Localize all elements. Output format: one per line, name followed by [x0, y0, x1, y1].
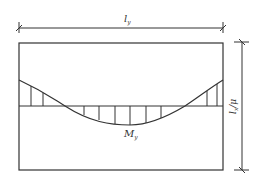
right-dimension-label: lx/μ [228, 99, 239, 114]
top-dimension-line [16, 22, 226, 33]
moment-label: My [123, 128, 138, 141]
moment-curve [19, 80, 223, 125]
moment-ordinates [31, 84, 217, 125]
top-dimension-label: ly [124, 13, 131, 26]
moment-diagram: ly lx/μ My [0, 0, 257, 179]
